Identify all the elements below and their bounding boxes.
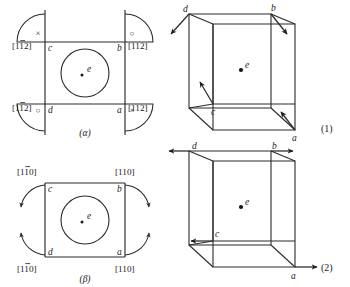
alpha-miller-top-right: [112]: [128, 41, 148, 51]
panel-alpha-drawing: × ○ ○ × e c b d a [112] [112] [112]: [0, 0, 175, 145]
cube2-front-face: [213, 161, 295, 267]
beta-center-label: e: [87, 211, 91, 221]
beta-miller-bottom-left-text: [110]: [17, 264, 37, 274]
cube2-back-face: [189, 151, 271, 245]
cube1-inner-edges: [189, 24, 295, 108]
arc-arrow-bottom-right: [125, 233, 149, 255]
figure-canvas: × ○ ○ × e c b d a [112] [112] [112]: [0, 0, 350, 287]
alpha-center-dot: [81, 74, 84, 77]
out-of-page-icon-bottom-left: ○: [36, 106, 41, 115]
alpha-vertex-label-c: c: [48, 43, 53, 53]
alpha-vertex-label-d: d: [48, 105, 53, 115]
cube2-connector-tr: [271, 151, 295, 161]
cube1-center-dot: [239, 68, 243, 72]
cube1-center-label: e: [245, 60, 249, 70]
cube2-connector-tl: [189, 151, 213, 161]
alpha-caption: (α): [79, 128, 90, 139]
alpha-miller-top-left: [112]: [12, 41, 32, 51]
beta-miller-bottom-right: [110]: [115, 264, 135, 274]
alpha-miller-bottom-left: [112]: [12, 103, 32, 113]
panel-cube2: e d b c a (2): [175, 145, 350, 287]
beta-miller-bottom-left: [110]: [17, 264, 37, 274]
beta-center-circle: [61, 196, 109, 244]
arc-arrow-bottom-left: [21, 233, 45, 255]
cube2-center-dot: [239, 205, 243, 209]
cube2-caption: (2): [321, 262, 333, 274]
cube2-center-label: e: [245, 197, 249, 207]
beta-vertex-label-d: d: [48, 247, 53, 257]
beta-center-dot: [81, 221, 84, 224]
alpha-vertex-label-b: b: [117, 43, 122, 53]
cube2-edges: [189, 151, 295, 267]
cube1-back-face: [189, 14, 271, 108]
cube1-edges: [189, 14, 295, 130]
beta-miller-top-left: [110]: [17, 167, 37, 177]
panel-cube1-drawing: e d b c a (1): [175, 0, 350, 145]
alpha-vertex-label-a: a: [117, 105, 122, 115]
cube2-vertex-label-d: d: [192, 141, 197, 151]
arc-top-left: [17, 14, 45, 42]
alpha-center-label: e: [87, 64, 91, 74]
cube1-connector-bl: [189, 108, 213, 130]
beta-caption: (β): [79, 274, 90, 285]
arc-arrow-top-left: [21, 185, 45, 207]
beta-miller-top-right: [110]: [115, 167, 135, 177]
cube1-arrow-c: [200, 82, 213, 104]
panel-alpha: × ○ ○ × e c b d a [112] [112] [112]: [0, 0, 175, 145]
panel-beta: e c b d a [110] [110] [110] [110] (β): [0, 145, 175, 287]
cube1-vertex-label-d: d: [183, 4, 188, 14]
alpha-miller-bottom-right: [112]: [128, 103, 148, 113]
cube1-vertex-label-b: b: [271, 3, 276, 13]
beta-vertex-label-a: a: [117, 247, 122, 257]
cube2-vertex-label-b: b: [272, 141, 277, 151]
beta-miller-top-right-text: [110]: [115, 167, 135, 177]
beta-square: [45, 183, 125, 257]
panel-cube1: e d b c a (1): [175, 0, 350, 145]
alpha-miller-bottom-right-text: [112]: [128, 103, 148, 113]
into-page-icon-top-left: ×: [36, 29, 41, 38]
alpha-miller-top-left-text: [112]: [12, 41, 32, 51]
panel-beta-drawing: e c b d a [110] [110] [110] [110] (β): [0, 145, 175, 287]
cube1-arrow-a: [281, 112, 295, 130]
alpha-miller-top-right-text: [112]: [128, 41, 148, 51]
alpha-center-circle: [61, 49, 109, 97]
beta-miller-top-left-text: [110]: [17, 167, 37, 177]
cube2-connector-br: [271, 245, 295, 267]
out-of-page-icon-top-right: ○: [130, 29, 135, 38]
cube2-connector-bl: [189, 245, 213, 267]
cube2-vertex-label-a: a: [291, 271, 296, 281]
beta-vertex-label-c: c: [48, 184, 53, 194]
arc-arrow-top-right: [125, 185, 149, 207]
panel-cube2-drawing: e d b c a (2): [175, 145, 350, 287]
alpha-miller-bottom-left-text: [112]: [12, 103, 32, 113]
cube1-connector-tl: [189, 14, 213, 24]
cube1-connector-br: [271, 108, 295, 130]
cube2-vertex-label-c: c: [215, 229, 220, 239]
beta-vertex-label-b: b: [117, 184, 122, 194]
cube1-caption: (1): [321, 123, 333, 135]
beta-miller-bottom-right-text: [110]: [115, 264, 135, 274]
cube1-vertex-label-a: a: [292, 133, 297, 143]
alpha-square: [45, 10, 125, 135]
cube2-inner-edges: [189, 161, 295, 245]
